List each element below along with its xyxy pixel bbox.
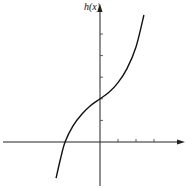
function-graph bbox=[0, 0, 192, 188]
y-axis-label: h(x) bbox=[84, 2, 100, 12]
axis-ticks bbox=[100, 34, 154, 142]
x-axis-arrow-icon bbox=[177, 140, 185, 145]
